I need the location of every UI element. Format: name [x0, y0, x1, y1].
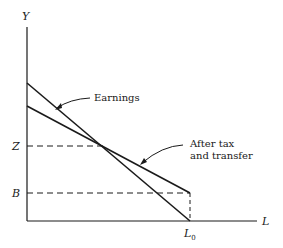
earnings-line	[27, 83, 190, 221]
labor-supply-diagram: Y L L0 Z B Earnings After tax and transf…	[0, 0, 283, 248]
after-tax-label-line2: and transfer	[190, 150, 253, 161]
earnings-arrowhead-icon	[55, 103, 62, 110]
after-tax-label-line1: After tax	[189, 138, 235, 149]
b-label: B	[11, 187, 20, 200]
after-tax-transfer-line	[27, 106, 190, 193]
x-axis-label: L	[261, 215, 269, 228]
l0-label: L0	[183, 227, 196, 242]
after-tax-pointer	[142, 145, 183, 163]
y-axis-label: Y	[22, 10, 31, 23]
earnings-pointer	[57, 98, 90, 108]
earnings-label: Earnings	[94, 92, 140, 103]
after-tax-arrowhead-icon	[140, 158, 147, 165]
z-label: Z	[11, 140, 20, 153]
